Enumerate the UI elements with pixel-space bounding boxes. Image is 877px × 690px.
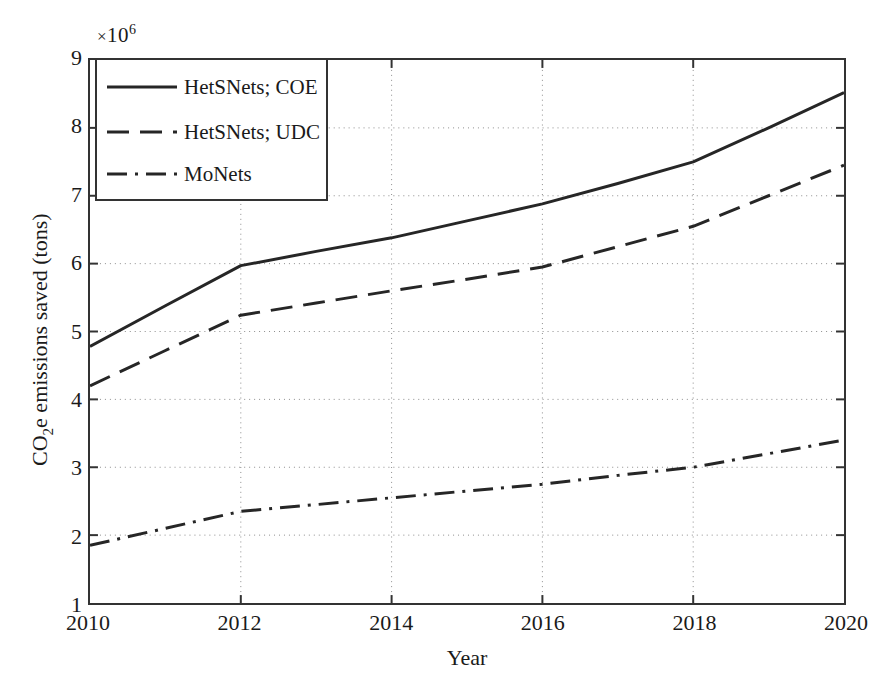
x-tick-label: 2010	[66, 612, 110, 634]
legend-item-label: HetSNets; UDC	[184, 122, 320, 143]
legend-line-sample-icon	[106, 80, 178, 94]
x-tick-label: 2016	[521, 612, 565, 634]
x-axis-title: Year	[88, 645, 846, 671]
legend-item-3[interactable]: MoNets	[106, 159, 320, 189]
y-tick-label: 3	[56, 457, 82, 479]
y-axis-title-pre: CO	[27, 435, 52, 466]
exponent-power: 6	[129, 22, 137, 37]
y-tick-label: 5	[56, 321, 82, 343]
exponent-base: 10	[107, 23, 129, 47]
y-tick-label: 2	[56, 526, 82, 548]
legend-line-sample-icon	[106, 125, 178, 139]
y-tick-label: 9	[56, 47, 82, 69]
y-tick-label: 4	[56, 389, 82, 411]
x-tick-label: 2014	[369, 612, 413, 634]
multiply-sign: ×	[97, 27, 107, 46]
y-tick-label: 7	[56, 184, 82, 206]
legend: HetSNets; COEHetSNets; UDCMoNets	[95, 58, 328, 201]
x-tick-label: 2018	[672, 612, 716, 634]
y-axis-title-post: e emissions saved (tons)	[27, 213, 52, 427]
legend-item-2[interactable]: HetSNets; UDC	[106, 117, 320, 147]
series-line-3	[90, 440, 844, 545]
legend-line-sample-icon	[106, 167, 178, 181]
y-axis-title-subscript: 2	[40, 428, 56, 436]
y-tick-label: 8	[56, 115, 82, 137]
x-tick-label: 2020	[824, 612, 868, 634]
legend-item-1[interactable]: HetSNets; COE	[106, 72, 320, 102]
chart-figure: ×106 123456789 201020122014201620182020 …	[0, 0, 877, 690]
legend-item-label: MoNets	[184, 164, 252, 185]
y-axis-title: CO2e emissions saved (tons)	[27, 60, 56, 620]
x-axis-tick-labels: 201020122014201620182020	[88, 612, 846, 642]
legend-item-label: HetSNets; COE	[184, 77, 318, 98]
y-axis-exponent-label: ×106	[97, 22, 137, 48]
x-tick-label: 2012	[218, 612, 262, 634]
y-tick-label: 6	[56, 252, 82, 274]
